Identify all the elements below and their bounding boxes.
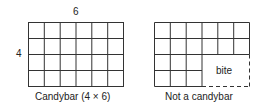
not-candybar-caption: Not a candybar — [165, 91, 233, 103]
height-label: 4 — [16, 48, 22, 60]
bitten-bar-grid — [155, 23, 250, 87]
candybar-grid — [29, 23, 124, 87]
bite-label: bite — [216, 65, 232, 77]
candybar-caption: Candybar (4 × 6) — [35, 91, 110, 103]
width-label: 6 — [73, 6, 79, 18]
